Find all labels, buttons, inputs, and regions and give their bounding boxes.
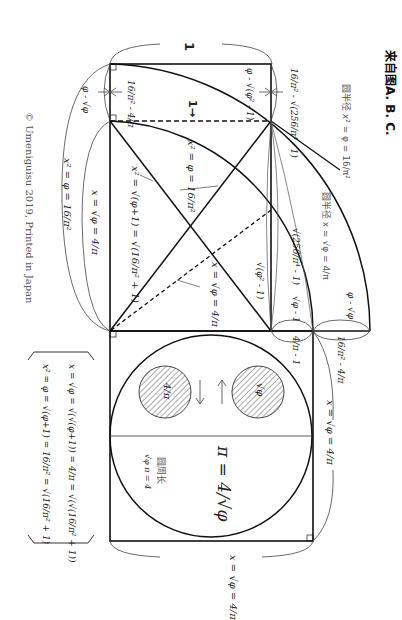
radius-outer-label: 圆半径 x² = φ = 16/π² <box>341 84 350 179</box>
circumference-eq: √φ π = 4 <box>143 454 151 489</box>
brace-gap-right-upper <box>313 320 370 331</box>
mid-right-a-label: √(256/π⁴ - 1) <box>291 228 300 285</box>
figure-caption: 来自图A. B. C. <box>384 50 396 136</box>
circle-left-label: 4/π <box>162 383 172 399</box>
brace-bottom <box>110 541 313 557</box>
formula-box-line1: x = √φ = √(√(φ+1)) = 4/π = √(√(16/π² + 1… <box>67 364 76 562</box>
mid-right-c-label: √φ - 1 <box>291 296 300 323</box>
arrow-up-icon <box>218 380 226 404</box>
left-gap-label: φ - √φ <box>81 86 90 113</box>
left-x-sq-label: x² = φ = 16/π² <box>62 158 72 231</box>
mid-right-b-label: √(φ² - 1) <box>255 262 264 299</box>
unit-arrow-label: 1→ <box>187 100 198 117</box>
far-right-gap-label: φ - √φ <box>346 292 355 319</box>
pi-formula: π = 4/√φ <box>215 446 232 522</box>
right-top-gap-label: 16/π² - √(256/π⁴ - 1) <box>289 68 298 158</box>
right-angle-marker <box>307 535 313 541</box>
unit-top-label: 1 <box>183 42 196 51</box>
radius-inner-text: 圆半径 x = √φ = 4/π <box>321 192 331 280</box>
pointer-arrow <box>177 280 200 287</box>
far-right-gap2-label: 16/π² - 4/π <box>336 336 345 383</box>
arrow-down-icon <box>196 380 204 404</box>
top-rect-inner-right-label: φ - √(φ² - 1) <box>245 68 254 120</box>
radius-outer-text: 圆半径 x² = φ = 16/π² <box>341 84 351 179</box>
diagonal-left-label: x² = √(φ+1) = √(16/π² + 1) <box>130 166 140 303</box>
right-angle-marker <box>110 115 116 121</box>
mid-right-d-label: 4/π - 1 <box>291 336 300 365</box>
circle-right-label: √φ <box>255 383 265 396</box>
diagonal-upper-label: x² = φ = 16/π² <box>186 140 196 213</box>
top-rect-inner-left-label: 16/π² - 4/π <box>126 80 135 127</box>
bottom-x-label: x = √φ = 4/π <box>228 555 238 620</box>
arrow-icon <box>110 88 122 96</box>
left-x-sqrt-label: x = √φ = 4/π <box>90 190 100 255</box>
radius-inner-label: 圆半径 x = √φ = 4/π <box>321 192 330 280</box>
formula-box-bottom-bracket <box>28 535 94 543</box>
pointer-arrow <box>140 175 153 181</box>
diagonal-dashed-label: x = √φ = 4/π <box>210 262 220 327</box>
circumference-cn: 圆周长 <box>156 457 166 484</box>
right-side-x-label: x = √φ = 4/π <box>325 400 335 465</box>
fan-arc <box>271 121 278 331</box>
formula-box-line2: x² = φ = √(φ+1) = 16/π² = √(16/π² + 1) <box>41 364 50 544</box>
circumference-label: 圆周长 <box>156 457 165 484</box>
right-angle-marker <box>110 331 116 337</box>
copyright-text: © Umeniguisu 2019, Printed in Japan <box>24 112 34 304</box>
arrow-icon <box>259 88 271 96</box>
formula-box-top-bracket <box>28 352 94 360</box>
